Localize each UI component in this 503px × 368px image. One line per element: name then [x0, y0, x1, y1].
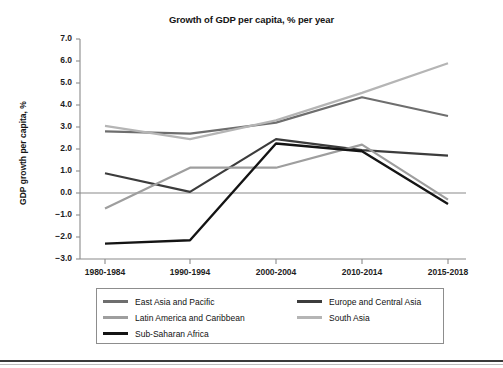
legend-item[interactable]: Sub-Saharan Africa [103, 326, 209, 341]
y-tick-label: −3.0 [38, 253, 72, 263]
chart-legend: East Asia and PacificEurope and Central … [96, 288, 444, 344]
y-tick-label: 7.0 [38, 33, 72, 43]
legend-color-swatch-icon [103, 332, 128, 335]
x-tick-label: 1990-1994 [150, 267, 230, 277]
y-tick-label: 1.0 [38, 165, 72, 175]
legend-label: East Asia and Pacific [135, 297, 214, 307]
y-tick-label: 0.0 [38, 187, 72, 197]
x-tick-label: 2015-2018 [408, 267, 488, 277]
chart-figure: Growth of GDP per capita, % per year GDP… [0, 0, 503, 368]
y-tick-label: −2.0 [38, 231, 72, 241]
series-line-south-asia [105, 63, 448, 139]
y-tick-label: 2.0 [38, 143, 72, 153]
series-line-latin-america-and-caribbean [105, 145, 448, 209]
y-tick-label: −1.0 [38, 209, 72, 219]
legend-item[interactable]: Latin America and Caribbean [103, 310, 245, 325]
legend-label: Latin America and Caribbean [135, 313, 245, 323]
x-tick-label: 2010-2014 [322, 267, 402, 277]
legend-label: South Asia [329, 313, 370, 323]
y-tick-label: 6.0 [38, 55, 72, 65]
legend-color-swatch-icon [297, 316, 322, 319]
footer-divider-secondary [0, 364, 503, 365]
series-line-east-asia-and-pacific [105, 97, 448, 133]
legend-item[interactable]: Europe and Central Asia [297, 294, 421, 309]
y-tick-label: 4.0 [38, 99, 72, 109]
legend-color-swatch-icon [297, 300, 322, 303]
legend-color-swatch-icon [103, 316, 128, 319]
legend-color-swatch-icon [103, 300, 128, 303]
legend-label: Sub-Saharan Africa [135, 329, 209, 339]
y-tick-label: 3.0 [38, 121, 72, 131]
x-tick-label: 1980-1984 [65, 267, 145, 277]
legend-item[interactable]: East Asia and Pacific [103, 294, 214, 309]
y-tick-label: 5.0 [38, 77, 72, 87]
legend-label: Europe and Central Asia [329, 297, 421, 307]
x-tick-label: 2000-2004 [236, 267, 316, 277]
legend-item[interactable]: South Asia [297, 310, 370, 325]
footer-divider [0, 360, 503, 362]
